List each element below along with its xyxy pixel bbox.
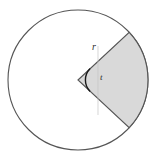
- circle-sector-diagram: [0, 0, 155, 165]
- angle-label: t: [100, 73, 103, 82]
- radius-label: r: [92, 42, 96, 52]
- geometry-figure: r t: [0, 0, 155, 165]
